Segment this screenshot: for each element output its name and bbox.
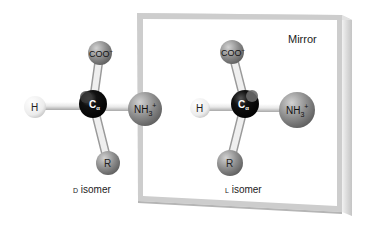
- d-isomer-label: D isomer: [73, 184, 112, 195]
- svg-text:R: R: [104, 158, 111, 169]
- atom-c-alpha: Cα: [79, 90, 107, 118]
- atom-nh3: NH3+: [279, 92, 315, 128]
- atom-coo: COO−: [88, 41, 114, 65]
- atom-nh3: NH3+: [128, 92, 162, 126]
- atom-h: H: [190, 98, 210, 118]
- enantiomer-diagram: Mirror COO− H NH3+ R: [0, 0, 367, 226]
- svg-text:H: H: [196, 103, 203, 114]
- svg-text:H: H: [31, 102, 38, 113]
- svg-text:R: R: [226, 158, 233, 169]
- mirror-side-edge: [342, 15, 352, 216]
- mirror-label: Mirror: [288, 33, 317, 45]
- atom-c-alpha: Cα: [231, 90, 259, 118]
- atom-r: R: [96, 151, 120, 175]
- l-isomer-label: L isomer: [225, 184, 262, 195]
- atom-h: H: [24, 96, 46, 118]
- atom-r: R: [217, 150, 243, 176]
